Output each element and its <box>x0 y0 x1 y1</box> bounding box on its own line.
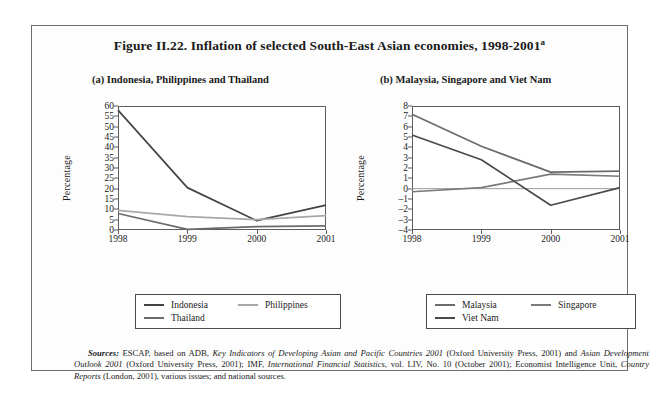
chart-b-ytick-mark-0 <box>408 188 412 189</box>
page-title: Figure II.22. Inflation of selected Sout… <box>32 38 627 54</box>
chart-b-xtick-mark-1998 <box>412 230 413 234</box>
sources-text-2: (Oxford University Press, 2001) and <box>443 348 581 358</box>
sources-text-1: ESCAP, based on ADB, <box>119 348 212 358</box>
chart-a-ytick-mark-50 <box>114 126 118 127</box>
chart-a-ytick-mark-10 <box>114 209 118 210</box>
chart-a-ytick-mark-20 <box>114 188 118 189</box>
chart-a-xtick-mark-2000 <box>257 230 258 234</box>
sources-text-5: (London, 2001), various issues; and nati… <box>101 371 286 381</box>
panel-a-title: (a) Indonesia, Philippines and Thailand <box>92 74 269 85</box>
chart-b-legend: MalaysiaSingaporeViet Nam <box>426 294 636 329</box>
chart-a-xtick-2000: 2000 <box>247 234 266 244</box>
sources-italic-3: International Financial Statistics <box>268 359 385 369</box>
legend-swatch-indonesia <box>144 304 164 306</box>
chart-a-ytick-mark-5 <box>114 219 118 220</box>
chart-b-ytick-mark--3 <box>408 219 412 220</box>
legend-swatch-malaysia <box>435 304 455 306</box>
figure-title-text: Figure II.22. Inflation of selected Sout… <box>114 38 541 53</box>
sources-italic-1: Key Indicators of Developing Asian and P… <box>212 348 443 358</box>
chart-a-ytick-mark-45 <box>114 137 118 138</box>
chart-b-xtick-1998: 1998 <box>403 234 422 244</box>
panel-b-title: (b) Malaysia, Singapore and Viet Nam <box>380 74 551 85</box>
series-line-indonesia <box>118 110 326 221</box>
chart-a-indonesia-philippines-thailand: Percentage 051015202530354045505560 1998… <box>48 98 338 258</box>
chart-a-xtick-2001: 2001 <box>317 234 336 244</box>
chart-a-legend: IndonesiaPhilippinesThailand <box>135 294 341 329</box>
legend-label-singapore: Singapore <box>558 300 597 310</box>
legend-label-viet-nam: Viet Nam <box>462 313 499 323</box>
figure-title-superscript: a <box>541 37 546 47</box>
chart-b-ytick-mark-1 <box>408 178 412 179</box>
series-line-malaysia <box>412 114 620 172</box>
sources-text-3: (Oxford University Press, 2001); IMF, <box>123 359 268 369</box>
chart-b-malaysia-singapore-vietnam: Percentage –4–3–2–1012345678 19981999200… <box>342 98 632 258</box>
series-line-viet-nam <box>412 135 620 205</box>
chart-b-xtick-mark-2001 <box>620 230 621 234</box>
legend-item-indonesia[interactable]: Indonesia <box>144 299 238 312</box>
chart-b-ytick-mark-5 <box>408 137 412 138</box>
chart-b-xtick-2000: 2000 <box>541 234 560 244</box>
legend-item-viet-nam[interactable]: Viet Nam <box>435 312 531 325</box>
sources-label: Sources: <box>88 348 119 358</box>
chart-b-xtick-2001: 2001 <box>611 234 630 244</box>
chart-a-xtick-mark-1999 <box>187 230 188 234</box>
chart-b-ytick-mark--2 <box>408 209 412 210</box>
chart-a-xtick-1999: 1999 <box>178 234 197 244</box>
chart-b-ytick-mark-3 <box>408 157 412 158</box>
chart-a-ytick-mark-25 <box>114 178 118 179</box>
legend-label-indonesia: Indonesia <box>171 300 208 310</box>
legend-label-philippines: Philippines <box>265 300 308 310</box>
legend-swatch-thailand <box>144 317 164 319</box>
legend-item-philippines[interactable]: Philippines <box>238 299 332 312</box>
chart-b-ytick-mark-6 <box>408 126 412 127</box>
figure-frame: Figure II.22. Inflation of selected Sout… <box>31 25 628 371</box>
legend-item-thailand[interactable]: Thailand <box>144 312 238 325</box>
chart-b-ytick-mark-8 <box>408 106 412 107</box>
chart-b-ytick-mark-4 <box>408 147 412 148</box>
chart-a-ytick-mark-15 <box>114 199 118 200</box>
chart-b-xtick-1999: 1999 <box>472 234 491 244</box>
chart-b-xtick-mark-2000 <box>551 230 552 234</box>
chart-a-ytick-mark-30 <box>114 168 118 169</box>
sources-footnote: Sources: ESCAP, based on ADB, Key Indica… <box>74 348 649 382</box>
chart-b-ytick-mark--1 <box>408 199 412 200</box>
chart-a-ytick-mark-55 <box>114 116 118 117</box>
chart-b-xtick-mark-1999 <box>481 230 482 234</box>
chart-a-xtick-1998: 1998 <box>109 234 128 244</box>
legend-swatch-singapore <box>531 304 551 306</box>
legend-label-malaysia: Malaysia <box>462 300 497 310</box>
legend-swatch-philippines <box>238 304 258 306</box>
chart-a-ytick-mark-35 <box>114 157 118 158</box>
legend-item-singapore[interactable]: Singapore <box>531 299 627 312</box>
legend-item-malaysia[interactable]: Malaysia <box>435 299 531 312</box>
chart-a-ytick-mark-40 <box>114 147 118 148</box>
chart-a-xtick-mark-2001 <box>326 230 327 234</box>
legend-label-thailand: Thailand <box>171 313 205 323</box>
chart-b-ytick-mark-2 <box>408 168 412 169</box>
chart-b-ytick-mark-7 <box>408 116 412 117</box>
sources-text-4: , vol. LIV, No. 10 (October 2001); Econo… <box>385 359 621 369</box>
series-line-thailand <box>118 213 326 229</box>
chart-a-xtick-mark-1998 <box>118 230 119 234</box>
chart-a-ytick-mark-60 <box>114 106 118 107</box>
legend-swatch-viet-nam <box>435 317 455 319</box>
